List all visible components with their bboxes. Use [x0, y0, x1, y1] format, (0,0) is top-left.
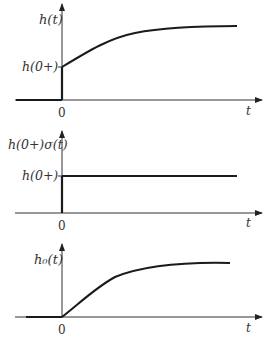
panel-h: h(t) h(0+) 0 t — [15, 4, 262, 120]
response-curve — [62, 26, 237, 67]
y-label: h₀(t) — [34, 252, 63, 267]
y-label: h(0+)σ(t) — [8, 137, 68, 152]
panel-step: h(0+)σ(t) h(0+) 0 t — [8, 131, 262, 233]
level-label: h(0+) — [22, 168, 58, 183]
x-label: t — [246, 216, 251, 230]
origin-label: 0 — [58, 219, 66, 233]
decomposition-diagram: h(t) h(0+) 0 t h(0+)σ(t) h(0+) 0 t h₀(t)… — [0, 0, 272, 347]
level-label: h(0+) — [22, 59, 58, 74]
x-label: t — [246, 104, 251, 118]
x-label: t — [246, 321, 251, 335]
panel-h0: h₀(t) 0 t — [15, 244, 262, 337]
origin-label: 0 — [58, 323, 66, 337]
response-curve — [62, 263, 230, 317]
y-label: h(t) — [39, 12, 63, 27]
origin-label: 0 — [58, 106, 66, 120]
